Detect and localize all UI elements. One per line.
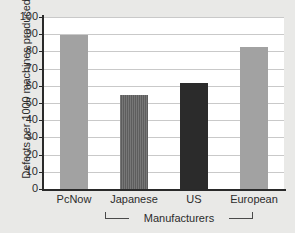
- y-axis-tick-label: 30: [0, 131, 38, 142]
- manufacturers-bracket: Manufacturers: [105, 212, 253, 224]
- y-axis-tick-label: 0: [0, 183, 38, 194]
- y-axis-tick-label: 20: [0, 149, 38, 160]
- y-axis-tick-label: 40: [0, 114, 38, 125]
- bar-us: [180, 83, 208, 189]
- y-axis-tick-label: 10: [0, 166, 38, 177]
- bar-japanese: [120, 95, 148, 189]
- x-axis-line: [42, 189, 286, 191]
- y-axis-line: [42, 15, 44, 191]
- bars-container: [44, 17, 284, 189]
- y-axis-tick-label: 90: [0, 28, 38, 39]
- y-axis-tick-label: 100: [0, 11, 38, 22]
- x-axis-tick-label-european: European: [214, 193, 294, 205]
- bar-european: [240, 47, 268, 189]
- y-axis-tick-label: 60: [0, 80, 38, 91]
- bracket-tick-right: [252, 212, 253, 219]
- bar-chart-figure: Defects per 1000 machines produced 01020…: [0, 0, 295, 233]
- bar-pcnow: [60, 35, 88, 189]
- y-axis-tick-label: 50: [0, 97, 38, 108]
- y-axis-tick-label: 70: [0, 63, 38, 74]
- bracket-tick-left: [105, 212, 106, 219]
- x-axis-title: Manufacturers: [129, 212, 229, 224]
- y-axis-tick-label: 80: [0, 45, 38, 56]
